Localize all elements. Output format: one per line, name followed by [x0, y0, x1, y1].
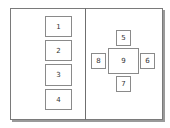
box-4: 4 [45, 89, 72, 110]
box-label: 2 [56, 47, 60, 55]
box-label: 1 [56, 23, 60, 31]
box-label: 8 [96, 57, 100, 65]
box-label: 6 [145, 57, 149, 65]
box-label: 7 [121, 80, 125, 88]
box-7: 7 [116, 76, 131, 92]
box-5: 5 [116, 30, 131, 46]
box-9: 9 [108, 48, 139, 74]
box-label: 3 [56, 71, 60, 79]
box-1: 1 [45, 16, 72, 37]
box-2: 2 [45, 40, 72, 61]
panel-divider [85, 8, 86, 120]
box-label: 4 [56, 96, 60, 104]
box-label: 5 [121, 34, 125, 42]
box-6: 6 [140, 53, 155, 69]
box-8: 8 [91, 53, 106, 69]
box-3: 3 [45, 64, 72, 86]
box-label: 9 [121, 57, 125, 65]
